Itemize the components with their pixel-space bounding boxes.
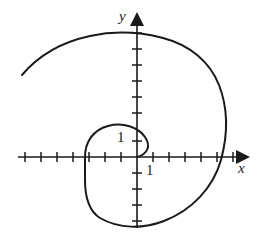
y-axis-unit-label: 1 xyxy=(117,130,125,145)
y-axis xyxy=(130,12,144,228)
y-axis-arrowhead-icon xyxy=(130,12,144,26)
x-axis-label: x xyxy=(238,161,245,176)
y-axis-label: y xyxy=(119,9,126,24)
x-axis-unit-label: 1 xyxy=(146,163,154,178)
x-axis xyxy=(18,150,250,164)
figure-canvas xyxy=(0,0,257,237)
polar-curve-figure: y x 1 1 xyxy=(0,0,257,237)
